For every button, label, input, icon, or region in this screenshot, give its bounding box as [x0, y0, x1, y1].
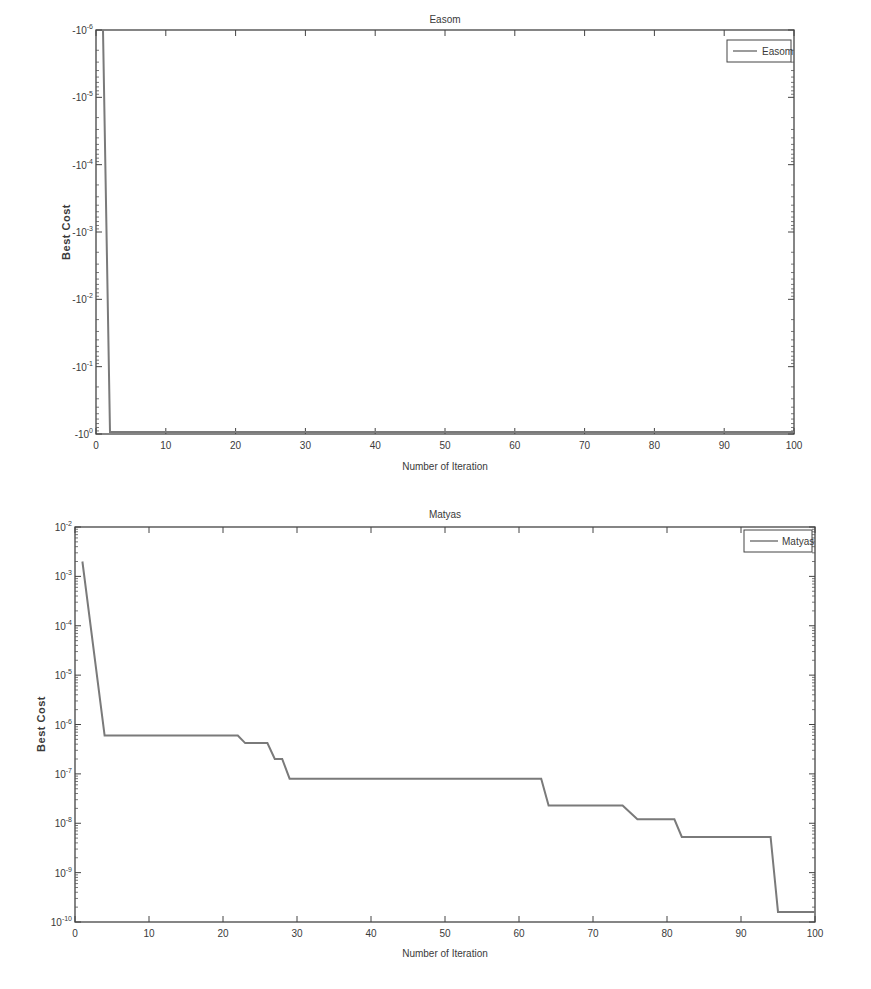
x-tick-label: 30 [291, 928, 303, 939]
plot-area [75, 527, 815, 922]
x-tick-label: 90 [735, 928, 747, 939]
x-tick-label: 70 [587, 928, 599, 939]
x-tick-label: 10 [143, 928, 155, 939]
y-axis-label: Best Cost [60, 204, 72, 260]
x-tick-label: 60 [509, 440, 521, 451]
x-tick-label: 50 [439, 928, 451, 939]
y-tick-label: 10-6 [55, 718, 72, 731]
x-tick-label: 10 [160, 440, 172, 451]
legend: Matyas [744, 530, 814, 552]
legend: Easom [727, 40, 793, 62]
matyas-chart: Matyas 0102030405060708090100 10-210-310… [35, 509, 824, 959]
legend-label: Easom [762, 46, 793, 57]
x-tick-label: 40 [370, 440, 382, 451]
y-tick-label: -10-5 [72, 90, 93, 103]
x-tick-label: 0 [93, 440, 99, 451]
y-axis-label: Best Cost [35, 696, 47, 752]
x-tick-label: 30 [300, 440, 312, 451]
x-tick-label: 70 [579, 440, 591, 451]
y-tick-label: 10-9 [55, 866, 72, 879]
x-tick-label: 100 [786, 440, 803, 451]
y-tick-label: -10-4 [72, 158, 93, 171]
y-tick-label: 10-7 [55, 767, 72, 780]
y-tick-label: 10-4 [55, 619, 72, 632]
x-tick-label: 80 [649, 440, 661, 451]
x-axis-label: Number of Iteration [402, 948, 488, 959]
y-tick-label: -10-3 [72, 225, 93, 238]
x-tick-label: 60 [513, 928, 525, 939]
y-tick-label: -10-1 [72, 360, 93, 373]
y-tick-label: 10-5 [55, 668, 72, 681]
x-tick-label: 50 [439, 440, 451, 451]
plot-area [96, 30, 794, 434]
x-tick-label: 100 [807, 928, 824, 939]
x-tick-label: 40 [365, 928, 377, 939]
x-tick-label: 80 [661, 928, 673, 939]
y-tick-label: 10-8 [55, 816, 72, 829]
figure-canvas: Easom 0102030405060708090100 -10-6-10-5-… [0, 0, 871, 989]
x-axis-label: Number of Iteration [402, 461, 488, 472]
y-tick-label: 10-2 [55, 520, 72, 533]
y-tick-label: -10-6 [72, 23, 93, 36]
y-tick-label: -10-2 [72, 292, 93, 305]
chart-title: Easom [429, 14, 460, 25]
x-tick-label: 20 [217, 928, 229, 939]
figure: Easom 0102030405060708090100 -10-6-10-5-… [0, 0, 871, 989]
y-tick-label: 10-3 [55, 569, 72, 582]
chart-title: Matyas [429, 509, 461, 520]
y-tick-label: 10-10 [51, 915, 72, 928]
y-tick-label: -100 [75, 427, 93, 440]
legend-label: Matyas [782, 536, 814, 547]
x-tick-label: 90 [719, 440, 731, 451]
x-tick-label: 20 [230, 440, 242, 451]
easom-chart: Easom 0102030405060708090100 -10-6-10-5-… [60, 14, 803, 472]
x-tick-label: 0 [72, 928, 78, 939]
